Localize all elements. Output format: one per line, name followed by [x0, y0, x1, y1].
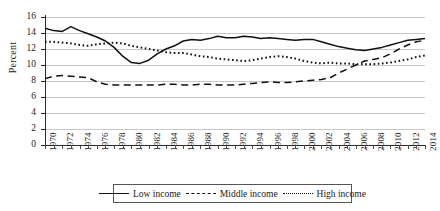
- series-container: [0, 0, 440, 211]
- line-chart-figure: Percent 0246810121416 197019721974197619…: [0, 0, 440, 211]
- legend-swatch-dashed: [186, 193, 216, 194]
- legend-swatch-dotted: [283, 193, 313, 194]
- legend-item-high-income: High income: [283, 189, 366, 199]
- series-line-middle-income: [45, 40, 425, 85]
- legend-label: Low income: [133, 189, 181, 199]
- legend-label: Middle income: [220, 189, 278, 199]
- chart-legend: Low incomeMiddle incomeHigh income: [113, 184, 352, 203]
- series-line-high-income: [45, 42, 425, 64]
- series-line-low-income: [45, 27, 425, 64]
- legend-label: High income: [317, 189, 366, 199]
- legend-swatch-solid: [99, 193, 129, 194]
- legend-item-middle-income: Middle income: [186, 189, 278, 199]
- legend-item-low-income: Low income: [99, 189, 181, 199]
